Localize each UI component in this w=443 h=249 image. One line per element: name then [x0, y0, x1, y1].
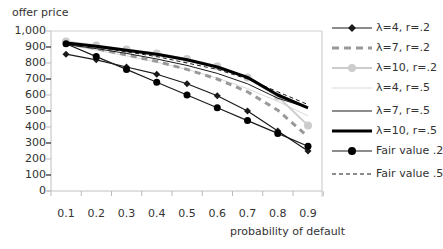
legend-label: Fair value .5	[376, 167, 443, 181]
legend-label: λ=4, r=.2	[376, 21, 430, 35]
legend-item-lambda10-r5: λ=10, r=.5	[330, 124, 442, 140]
diamond-marker-icon	[214, 92, 221, 99]
circle-marker-icon	[184, 92, 191, 99]
dashed-line-icon	[330, 167, 374, 181]
circle-marker-line-icon	[330, 144, 374, 158]
legend-label: λ=10, r=.5	[376, 124, 437, 138]
circle-marker-icon	[305, 143, 312, 150]
diamond-marker-icon	[244, 108, 251, 115]
thin-line-icon	[330, 81, 374, 95]
legend-label: λ=7, r=.5	[376, 104, 430, 118]
circle-marker-icon	[153, 79, 160, 86]
dashed-line-icon	[330, 41, 374, 55]
circle-marker-icon	[93, 53, 100, 60]
diamond-marker-line-icon	[330, 21, 374, 35]
circle-marker-icon	[304, 121, 312, 129]
legend-label: Fair value .2	[376, 144, 443, 158]
legend-label: λ=4, r=.5	[376, 81, 430, 95]
thick-line-icon	[330, 124, 374, 138]
legend-label: λ=10, r=.2	[376, 61, 437, 75]
circle-marker-icon	[63, 40, 70, 47]
diamond-marker-icon	[153, 71, 160, 78]
diamond-marker-icon	[63, 51, 70, 58]
legend-item-fair-value-2: Fair value .2	[330, 144, 442, 160]
legend-item-fair-value-5: Fair value .5	[330, 167, 442, 183]
thin-line-icon	[330, 104, 374, 118]
legend-item-lambda7-r5: λ=7, r=.5	[330, 104, 442, 120]
legend-item-lambda7-r2: λ=7, r=.2	[330, 41, 442, 57]
legend-item-lambda4-r5: λ=4, r=.5	[330, 81, 442, 97]
circle-marker-line-icon	[330, 61, 374, 75]
circle-marker-icon	[244, 117, 251, 124]
legend-item-lambda10-r2: λ=10, r=.2	[330, 61, 442, 77]
diamond-marker-icon	[184, 80, 191, 87]
legend-label: λ=7, r=.2	[376, 41, 430, 55]
circle-marker-icon	[274, 130, 281, 137]
legend-item-lambda4-r2: λ=4, r=.2	[330, 21, 442, 37]
circle-marker-icon	[214, 104, 221, 111]
circle-marker-icon	[123, 66, 130, 73]
